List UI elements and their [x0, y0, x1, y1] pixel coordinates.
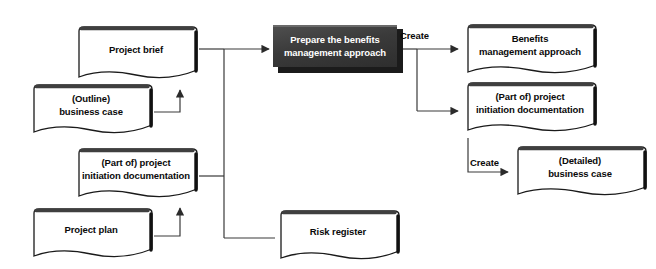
process-shadow-bottom — [278, 67, 403, 73]
node-label: Benefits management approach — [462, 24, 598, 68]
node-prepare-benefits-management-approach[interactable]: Prepare the benefits management approach — [273, 25, 403, 73]
process-diagram: Project brief (Outline) business case (P… — [0, 0, 656, 269]
edge-process-to-outputs — [403, 49, 458, 111]
node-label: Prepare the benefits management approach — [284, 34, 386, 60]
node-label: Risk register — [275, 210, 401, 254]
node-part-of-pid-input[interactable]: (Part of) project initiation documentati… — [73, 148, 199, 204]
edge-label-create-benefits: Create — [400, 30, 429, 41]
node-outline-business-case[interactable]: (Outline) business case — [28, 84, 154, 140]
node-part-of-pid-output[interactable]: (Part of) project initiation documentati… — [462, 82, 598, 138]
node-project-plan[interactable]: Project plan — [28, 208, 154, 264]
node-label: Project brief — [73, 26, 199, 74]
node-project-brief[interactable]: Project brief — [73, 26, 199, 86]
node-risk-register[interactable]: Risk register — [275, 210, 401, 266]
edge-project-plan-to-pid — [154, 208, 180, 236]
node-label: (Detailed) business case — [512, 146, 648, 190]
edge-outline-business-case-to-project-brief — [154, 90, 180, 112]
node-label: (Part of) project initiation documentati… — [73, 148, 199, 192]
node-label: (Part of) project initiation documentati… — [462, 82, 598, 126]
edge-trunk-to-process — [224, 49, 269, 238]
node-detailed-business-case[interactable]: (Detailed) business case — [512, 146, 648, 202]
node-label: (Outline) business case — [28, 84, 154, 128]
process-body: Prepare the benefits management approach — [273, 25, 397, 67]
node-benefits-management-approach[interactable]: Benefits management approach — [462, 24, 598, 80]
edge-label-create-business-case: Create — [470, 157, 499, 168]
node-label: Project plan — [28, 208, 154, 252]
